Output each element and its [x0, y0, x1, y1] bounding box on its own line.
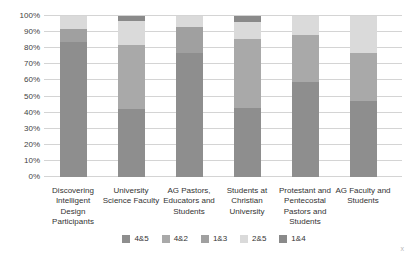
gridline-100 — [44, 15, 402, 16]
gridline-70 — [44, 63, 402, 64]
chart-figure: Discovering Intelligent Design Participa… — [0, 0, 412, 258]
bar-segment-4and2-cat4 — [292, 35, 319, 82]
bar-segment-2and5-cat0 — [60, 16, 87, 29]
x-axis-label-5: AG Faculty and Students — [334, 186, 392, 207]
legend-label: 2&5 — [252, 234, 266, 243]
bar-0 — [60, 16, 87, 177]
y-tick-label-10: 10% — [2, 157, 40, 165]
bar-segment-4and2-cat3 — [234, 39, 261, 108]
y-tick-label-80: 80% — [2, 44, 40, 52]
legend-label: 1&3 — [213, 234, 227, 243]
bar-segment-4and5-cat3 — [234, 108, 261, 177]
bar-2 — [176, 16, 203, 177]
y-tick-label-90: 90% — [2, 28, 40, 36]
x-axis-label-4: Protestant and Pentecostal Pastors and S… — [276, 186, 334, 228]
bar-segment-2and5-cat3 — [234, 22, 261, 38]
y-tick-label-20: 20% — [2, 141, 40, 149]
bar-segment-4and5-cat5 — [350, 101, 377, 177]
y-tick-label-30: 30% — [2, 125, 40, 133]
legend-item-4and5: 4&5 — [122, 234, 148, 243]
bar-1 — [118, 16, 145, 177]
bar-segment-4and5-cat1 — [118, 109, 145, 177]
gridline-0 — [44, 176, 402, 177]
x-axis-label-3: Students at Christian University — [218, 186, 276, 217]
bar-5 — [350, 16, 377, 177]
bar-segment-2and5-cat2 — [176, 16, 203, 27]
x-axis-label-1: University Science Faculty — [102, 186, 160, 207]
bar-segment-1and3-cat0 — [60, 29, 87, 42]
y-tick-label-0: 0% — [2, 173, 40, 181]
gridline-30 — [44, 128, 402, 129]
gridline-90 — [44, 31, 402, 32]
y-tick-label-60: 60% — [2, 76, 40, 84]
bar-segment-4and5-cat4 — [292, 82, 319, 177]
x-axis-label-0: Discovering Intelligent Design Participa… — [44, 186, 102, 228]
bar-segment-4and2-cat5 — [350, 53, 377, 101]
bar-segment-2and5-cat5 — [350, 16, 377, 53]
gridline-20 — [44, 144, 402, 145]
gridline-40 — [44, 112, 402, 113]
legend-swatch-icon — [201, 235, 209, 243]
legend-swatch-icon — [122, 235, 130, 243]
x-axis-label-2: AG Pastors, Educators and Students — [160, 186, 218, 217]
bar-segment-2and5-cat4 — [292, 16, 319, 35]
legend-label: 4&2 — [174, 234, 188, 243]
y-tick-label-50: 50% — [2, 93, 40, 101]
legend: 4&54&21&32&51&4 — [24, 234, 404, 243]
gridline-60 — [44, 79, 402, 80]
gridline-80 — [44, 47, 402, 48]
gridline-50 — [44, 96, 402, 97]
bar-3 — [234, 16, 261, 177]
legend-label: 4&5 — [134, 234, 148, 243]
legend-label: 1&4 — [291, 234, 305, 243]
bar-segment-4and5-cat2 — [176, 53, 203, 177]
bar-segment-1and3-cat2 — [176, 27, 203, 53]
legend-item-2and5: 2&5 — [240, 234, 266, 243]
gridline-10 — [44, 160, 402, 161]
legend-swatch-icon — [279, 235, 287, 243]
legend-item-1and3: 1&3 — [201, 234, 227, 243]
legend-swatch-icon — [162, 235, 170, 243]
y-tick-label-40: 40% — [2, 109, 40, 117]
bar-segment-2and5-cat1 — [118, 21, 145, 45]
y-tick-label-100: 100% — [2, 12, 40, 20]
bar-4 — [292, 16, 319, 177]
y-tick-label-70: 70% — [2, 60, 40, 68]
legend-item-1and4: 1&4 — [279, 234, 305, 243]
legend-item-4and2: 4&2 — [162, 234, 188, 243]
bar-segment-4and5-cat0 — [60, 42, 87, 177]
bar-segment-4and2-cat1 — [118, 45, 145, 109]
corner-artifact-mark: x — [401, 245, 405, 252]
plot-area — [44, 16, 402, 177]
legend-swatch-icon — [240, 235, 248, 243]
